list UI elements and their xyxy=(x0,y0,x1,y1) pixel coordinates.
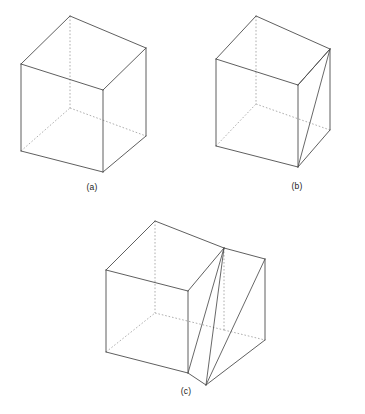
panel-b-solid-edges xyxy=(216,16,330,167)
solid-edge-top-back-left xyxy=(216,16,256,59)
panel-b: (b) xyxy=(216,16,330,191)
solid-edge-top-front-right xyxy=(103,48,146,90)
panel-b-hidden-edges xyxy=(216,16,330,146)
hidden-edge-bottom-right-back xyxy=(224,330,265,340)
solid-edge-top-back-right xyxy=(70,16,146,48)
solid-edge-top-front-left xyxy=(21,64,103,90)
panel-label-a: (a) xyxy=(87,182,98,192)
solid-edge-top-back-left xyxy=(106,221,155,270)
cut-edge-slab-mid-diagonal xyxy=(206,248,224,385)
hidden-edge-bottom-left-back xyxy=(216,104,256,146)
cut-edge-slab-right-diagonal xyxy=(206,259,265,385)
hidden-edge-bottom-right-back xyxy=(70,108,146,136)
solid-edge-bottom-right-wedge xyxy=(206,340,265,385)
hidden-edge-bottom-left-back xyxy=(106,313,155,352)
panel-c-hidden-edges xyxy=(106,221,265,352)
solid-edge-bottom-front-right xyxy=(103,136,146,172)
cut-edge-slab-left-diagonal xyxy=(188,248,224,373)
cube-diagram-canvas: (a) (b) xyxy=(0,0,365,414)
solid-edge-top-front-right xyxy=(188,248,224,291)
hidden-edge-bottom-right-back xyxy=(256,104,330,130)
solid-edge-bottom-front-left xyxy=(216,146,298,167)
solid-edge-top-back-left xyxy=(21,16,70,64)
panel-a: (a) xyxy=(21,16,146,192)
panel-c-cut-plane-edges xyxy=(188,248,265,385)
panel-b-cut-plane-edges xyxy=(298,49,330,167)
panel-a-solid-edges xyxy=(21,16,146,172)
solid-edge-top-back-right xyxy=(155,221,224,248)
panel-label-c: (c) xyxy=(181,386,192,396)
panel-c: (c) xyxy=(106,221,265,396)
solid-edge-bottom-front-left xyxy=(21,151,103,172)
solid-edge-top-front-left xyxy=(216,59,298,85)
solid-edge-bottom-front-left xyxy=(106,352,188,373)
panel-c-solid-edges xyxy=(106,221,265,385)
solid-edge-bottom-front-wedge xyxy=(188,373,206,385)
panel-label-b: (b) xyxy=(292,181,303,191)
solid-edge-top-front-left xyxy=(106,270,188,291)
hidden-edge-bottom-left-back xyxy=(21,108,70,151)
solid-edge-top-back-right xyxy=(256,16,330,49)
solid-edge-top-right-extension xyxy=(224,248,265,259)
